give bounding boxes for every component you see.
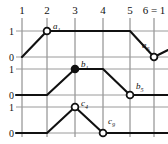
point-label-b1: b1 xyxy=(81,59,89,71)
x-tick-label-5: 5 xyxy=(127,4,133,16)
point-label-c9: c9 xyxy=(108,116,115,128)
panel-a-y-label-1: 1 xyxy=(9,26,14,37)
panel-b-marker-b5 xyxy=(127,92,134,99)
point-label-a6: a6 xyxy=(142,40,150,52)
panel-c-marker-c9 xyxy=(100,130,107,137)
panel-a-marker-a6 xyxy=(151,54,158,61)
panel-b-y-label-1: 1 xyxy=(9,64,14,75)
x-tick-label-2: 2 xyxy=(44,4,50,16)
panel-c-y-label-1: 1 xyxy=(9,102,14,113)
point-label-c4: c4 xyxy=(81,98,88,110)
panel-b: 1 0 b1 b5 xyxy=(9,59,168,101)
panel-b-marker-b1 xyxy=(72,66,79,73)
panel-b-y-label-0: 0 xyxy=(9,90,14,101)
panel-c: 1 0 c4 c9 xyxy=(9,98,168,139)
panel-a: 1 0 a1 a6 xyxy=(9,21,168,63)
panel-a-y-label-0: 0 xyxy=(9,52,14,63)
x-tick-label-3: 3 xyxy=(72,4,78,16)
figure-container: 1 2 3 4 5 6 = 1 1 0 a1 a6 1 0 xyxy=(0,0,168,144)
x-tick-label-4: 4 xyxy=(100,4,106,16)
panel-a-marker-a1 xyxy=(44,28,51,35)
x-tick-label-6: 6 = 1 xyxy=(143,4,166,16)
panel-c-curve xyxy=(16,107,168,133)
panel-b-curve xyxy=(16,69,168,95)
x-tick-label-1: 1 xyxy=(19,4,25,16)
piecewise-linear-figure: 1 2 3 4 5 6 = 1 1 0 a1 a6 1 0 xyxy=(0,0,168,144)
panel-c-marker-c4 xyxy=(72,104,79,111)
panel-c-y-label-0: 0 xyxy=(9,128,14,139)
point-label-b5: b5 xyxy=(136,81,144,93)
x-axis-label-group: 1 2 3 4 5 6 = 1 xyxy=(19,4,165,16)
point-label-a1: a1 xyxy=(53,21,61,33)
